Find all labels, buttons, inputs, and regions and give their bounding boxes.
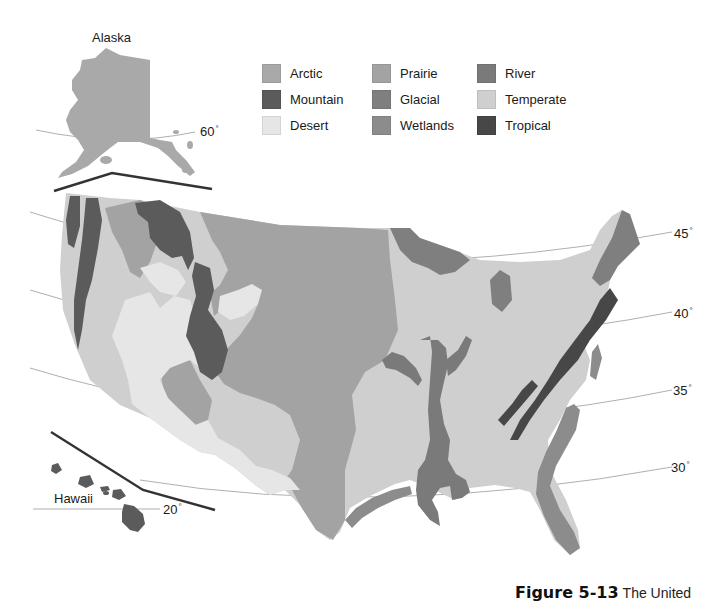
degree-symbol: ° xyxy=(215,124,218,133)
degree-symbol: ° xyxy=(178,502,181,511)
legend-swatch xyxy=(477,116,496,135)
figure-number: Figure 5-13 xyxy=(515,583,619,602)
legend-label: Mountain xyxy=(290,92,343,107)
legend-item-arctic: Arctic xyxy=(262,63,323,83)
hawaii-latitude-label: 20° xyxy=(163,502,182,517)
wetlands-delmarva xyxy=(590,344,602,380)
legend-item-glacial: Glacial xyxy=(372,89,440,109)
latitude-value: 45 xyxy=(674,226,688,241)
figure-caption: Figure 5-13The United xyxy=(515,583,691,602)
latitude-value: 20 xyxy=(163,502,177,517)
latitude-value: 60 xyxy=(200,124,214,139)
latitude-value: 40 xyxy=(674,306,688,321)
legend-label: Prairie xyxy=(400,66,438,81)
degree-symbol: ° xyxy=(689,226,692,235)
legend-label: Arctic xyxy=(290,66,323,81)
legend-label: Tropical xyxy=(505,118,551,133)
legend-item-desert: Desert xyxy=(262,115,328,135)
legend-label: River xyxy=(505,66,535,81)
legend-swatch xyxy=(372,90,391,109)
latitude-value: 30 xyxy=(671,460,685,475)
legend-swatch xyxy=(262,90,281,109)
legend-item-mountain: Mountain xyxy=(262,89,343,109)
caption-text: The United xyxy=(623,585,691,601)
degree-symbol: ° xyxy=(686,460,689,469)
legend-label: Glacial xyxy=(400,92,440,107)
latitude-label-35: 35° xyxy=(673,383,692,398)
legend-swatch xyxy=(477,90,496,109)
alaska-boundary xyxy=(54,173,212,191)
alaska-label: Alaska xyxy=(92,30,131,45)
legend-item-tropical: Tropical xyxy=(477,115,551,135)
legend-swatch xyxy=(262,64,281,83)
degree-symbol: ° xyxy=(689,306,692,315)
legend-swatch xyxy=(372,116,391,135)
latitude-label-40: 40° xyxy=(674,306,693,321)
legend-label: Wetlands xyxy=(400,118,454,133)
legend-item-temperate: Temperate xyxy=(477,89,566,109)
alaska-shape xyxy=(58,48,195,178)
legend-item-prairie: Prairie xyxy=(372,63,438,83)
latitude-label-45: 45° xyxy=(674,226,693,241)
legend-swatch xyxy=(372,64,391,83)
latitude-value: 35 xyxy=(673,383,687,398)
legend-swatch xyxy=(262,116,281,135)
map-legend: Arctic Mountain Desert Prairie Glacial W… xyxy=(262,63,582,143)
legend-swatch xyxy=(477,64,496,83)
latitude-label-30: 30° xyxy=(671,460,690,475)
alaska-latitude-label: 60° xyxy=(200,124,219,139)
hawaii-label: Hawaii xyxy=(54,491,93,506)
degree-symbol: ° xyxy=(688,383,691,392)
legend-item-river: River xyxy=(477,63,535,83)
legend-label: Temperate xyxy=(505,92,566,107)
legend-label: Desert xyxy=(290,118,328,133)
legend-item-wetlands: Wetlands xyxy=(372,115,454,135)
